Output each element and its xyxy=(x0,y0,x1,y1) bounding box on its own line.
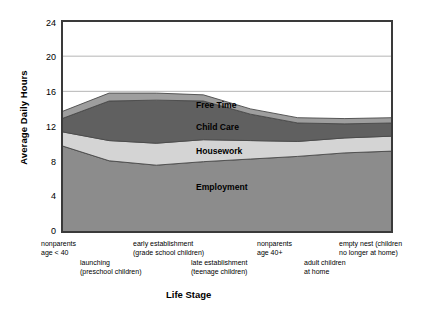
x-category-adult-children-at-home: adult children at home xyxy=(304,259,346,276)
x-axis-title: Life Stage xyxy=(166,289,211,300)
series-label-housework: Housework xyxy=(196,146,242,156)
x-category-launching: launching (preschool children) xyxy=(80,259,141,276)
series-label-employment: Employment xyxy=(196,182,248,192)
x-category-early-establishment: early establishment (grade school childr… xyxy=(133,240,204,257)
series-label-child-care: Child Care xyxy=(196,122,239,132)
x-category-empty-nest: empty nest (children no longer at home) xyxy=(339,240,402,257)
x-category-nonparents-under-40: nonparents age < 40 xyxy=(41,240,76,257)
stacked-area-chart: Average Daily Hours 24 20 16 12 8 4 0 Fr… xyxy=(0,0,431,312)
x-category-nonparents-over-40: nonparents age 40+ xyxy=(257,240,292,257)
series-label-free-time: Free Time xyxy=(196,100,236,110)
x-category-late-establishment: late establishment (teenage children) xyxy=(191,259,247,276)
